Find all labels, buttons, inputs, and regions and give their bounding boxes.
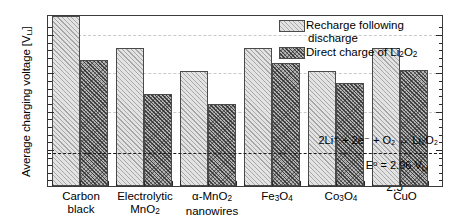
legend-swatch-direct-charge	[279, 47, 305, 59]
y-minor-tick-right	[439, 135, 443, 136]
x-tick	[172, 181, 173, 186]
y-tick-right-4.5	[436, 35, 442, 36]
legend-label-direct-charge: Direct charge of Li2O2	[306, 46, 417, 61]
y-minor-tick	[48, 58, 52, 59]
plot-area: Recharge following discharge Direct char…	[47, 15, 443, 187]
y-tick-right-3.5	[436, 112, 442, 113]
y-minor-tick	[48, 81, 52, 82]
y-minor-tick-right	[439, 27, 443, 28]
bar-direct-carbon-black[interactable]	[80, 60, 108, 186]
y-minor-tick-right	[439, 43, 443, 44]
y-minor-tick	[48, 27, 52, 28]
y-minor-tick	[48, 158, 52, 159]
bar-recharge-carbon-black[interactable]	[52, 16, 80, 186]
y-minor-tick-right	[439, 50, 443, 51]
legend-swatch-recharge	[279, 20, 305, 32]
y-tick-right-3.0	[436, 150, 442, 151]
x-category-fe3o4: Fe3O4	[247, 190, 307, 205]
y-axis-title: Average charging voltage [VLi]	[20, 7, 33, 197]
y-minor-tick	[48, 180, 52, 181]
y-minor-tick	[48, 173, 52, 174]
legend: Recharge following discharge Direct char…	[279, 19, 417, 62]
x-tick	[244, 181, 245, 186]
x-tick	[364, 181, 365, 186]
x-category-alpha-mno2-nanowires: α-MnO2nanowires	[178, 190, 246, 218]
bar-recharge-alpha-mno2-nanowires[interactable]	[180, 71, 208, 186]
y-minor-tick-right	[439, 89, 443, 90]
bar-recharge-electrolytic-mno2[interactable]	[116, 48, 144, 186]
bar-direct-electrolytic-mno2[interactable]	[144, 94, 172, 186]
x-tick	[52, 181, 53, 186]
x-tick	[400, 181, 401, 186]
y-minor-tick-right	[439, 180, 443, 181]
x-tick	[308, 181, 309, 186]
y-minor-tick	[48, 119, 52, 120]
x-category-co3o4: Co3O4	[311, 190, 371, 205]
y-axis-title-text: Average charging voltage [V	[20, 36, 32, 178]
x-tick	[108, 181, 109, 186]
x-tick	[272, 181, 273, 186]
legend-item-direct-charge[interactable]: Direct charge of Li2O2	[279, 46, 417, 61]
bar-direct-fe3o4[interactable]	[272, 63, 300, 186]
y-minor-tick-right	[439, 127, 443, 128]
bar-direct-alpha-mno2-nanowires[interactable]	[208, 104, 236, 186]
y-tick-right-4.0	[436, 73, 442, 74]
x-tick	[180, 181, 181, 186]
y-minor-tick-right	[439, 173, 443, 174]
y-minor-tick-right	[439, 158, 443, 159]
bar-chart-figure: Average charging voltage [VLi] 2.5 3.0 3…	[0, 0, 453, 224]
x-tick	[80, 181, 81, 186]
y-axis-title-subscript: Li	[25, 29, 34, 35]
y-tick-4.5	[48, 35, 54, 36]
annotation-standard-potential: Eo = 2.96 VLi	[366, 159, 428, 173]
x-tick	[236, 181, 237, 186]
x-tick	[428, 181, 429, 186]
y-minor-tick-right	[439, 119, 443, 120]
y-minor-tick	[48, 96, 52, 97]
bar-recharge-fe3o4[interactable]	[244, 48, 272, 186]
x-tick	[372, 181, 373, 186]
y-minor-tick	[48, 66, 52, 67]
x-category-cuo: CuO	[375, 190, 435, 203]
y-tick-4.0	[48, 73, 54, 74]
x-category-electrolytic-mno2: ElectrolyticMnO2	[112, 190, 178, 218]
y-minor-tick-right	[439, 81, 443, 82]
y-minor-tick	[48, 50, 52, 51]
y-axis-title-tail: ]	[20, 26, 32, 29]
reference-line-2.96V	[48, 153, 442, 154]
y-minor-tick-right	[439, 96, 443, 97]
y-minor-tick	[48, 127, 52, 128]
y-minor-tick-right	[439, 142, 443, 143]
y-minor-tick	[48, 165, 52, 166]
y-minor-tick	[48, 43, 52, 44]
bar-recharge-co3o4[interactable]	[308, 71, 336, 186]
y-minor-tick-right	[439, 165, 443, 166]
y-minor-tick-right	[439, 58, 443, 59]
y-minor-tick-right	[439, 104, 443, 105]
y-minor-tick-right	[439, 66, 443, 67]
x-tick	[208, 181, 209, 186]
y-tick-3.0	[48, 150, 54, 151]
legend-item-recharge[interactable]: Recharge following discharge	[279, 19, 417, 45]
x-tick	[116, 181, 117, 186]
x-tick	[144, 181, 145, 186]
x-tick	[336, 181, 337, 186]
legend-label-recharge: Recharge following discharge	[306, 19, 404, 45]
x-category-carbon-black: Carbonblack	[51, 190, 111, 216]
y-minor-tick	[48, 89, 52, 90]
y-minor-tick	[48, 104, 52, 105]
x-tick	[300, 181, 301, 186]
y-minor-tick	[48, 142, 52, 143]
y-minor-tick	[48, 135, 52, 136]
annotation-reaction-equation: 2Li⁺ + 2e⁻ + O₂ ↔ Li₂O₂	[318, 134, 438, 147]
y-tick-3.5	[48, 112, 54, 113]
